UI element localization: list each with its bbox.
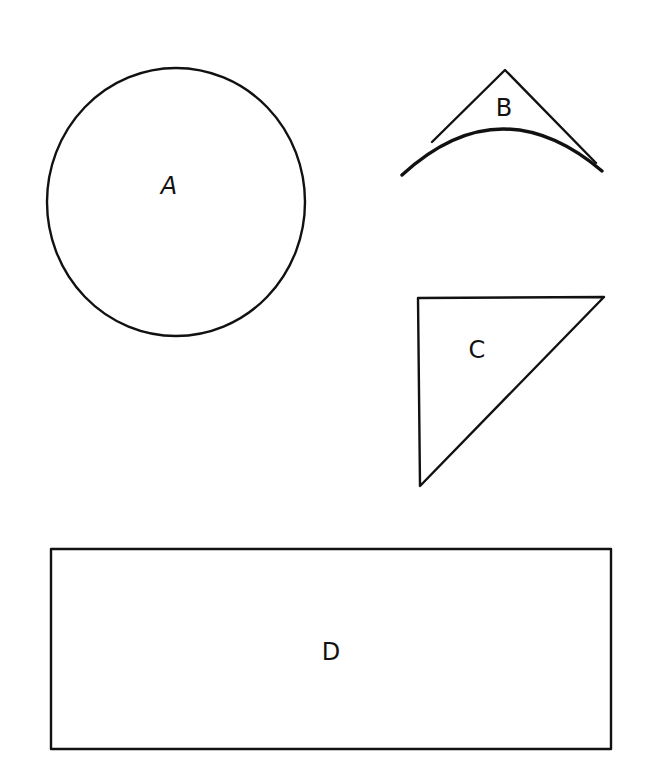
shape-c-triangle: [418, 297, 604, 486]
label-c: C: [469, 338, 486, 362]
label-d: D: [322, 640, 340, 664]
label-a: A: [161, 174, 177, 198]
shape-b-curved-triangle: [402, 70, 602, 175]
shape-a-circle: [47, 68, 305, 336]
label-b: B: [496, 96, 512, 120]
shape-b-arc: [402, 129, 602, 175]
